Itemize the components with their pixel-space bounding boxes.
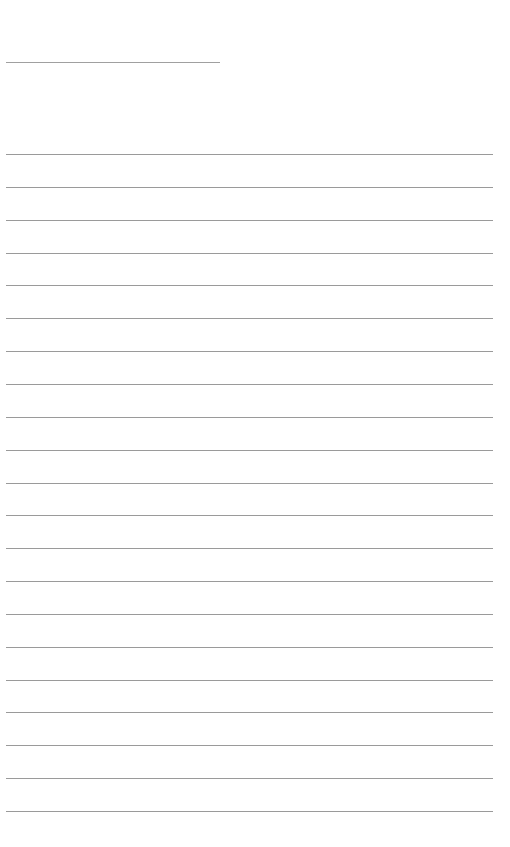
ruled-line	[6, 351, 493, 352]
ruled-line	[6, 680, 493, 681]
ruled-line	[6, 778, 493, 779]
ruled-line	[6, 417, 493, 418]
ruled-line	[6, 647, 493, 648]
ruled-line	[6, 220, 493, 221]
ruled-line	[6, 483, 493, 484]
ruled-line	[6, 581, 493, 582]
ruled-line	[6, 285, 493, 286]
ruled-line	[6, 187, 493, 188]
ruled-line	[6, 450, 493, 451]
ruled-line	[6, 318, 493, 319]
ruled-line	[6, 253, 493, 254]
ruled-line	[6, 384, 493, 385]
ruled-line	[6, 614, 493, 615]
ruled-line	[6, 712, 493, 713]
ruled-line	[6, 515, 493, 516]
ruled-line	[6, 811, 493, 812]
title-line	[6, 62, 220, 63]
ruled-line	[6, 745, 493, 746]
ruled-line	[6, 154, 493, 155]
ruled-line	[6, 548, 493, 549]
